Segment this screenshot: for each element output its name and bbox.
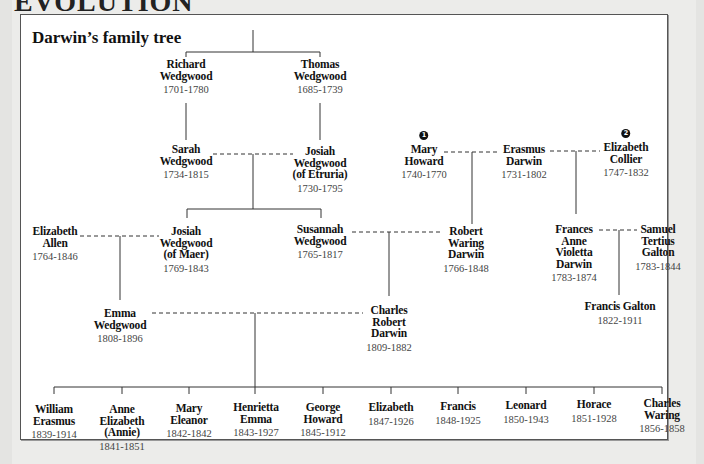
person-thomas-wedgwood: Thomas Wedgwood 1685-1739 [294,59,347,96]
note-marker-1: 1 [420,131,429,140]
child-horace: Horace 1851-1928 [571,399,617,425]
person-josiah-wedgwood-etruria: Josiah Wedgwood (of Etruria) 1730-1795 [293,146,348,195]
child-anne-elizabeth: Anne Elizabeth (Annie) 1841-1851 [99,404,145,453]
person-susannah-wedgwood: Susannah Wedgwood 1765-1817 [294,224,347,261]
person-erasmus-darwin: Erasmus Darwin 1731-1802 [501,144,547,181]
person-mary-howard: 1 Mary Howard 1740-1770 [401,131,447,181]
child-william-erasmus: William Erasmus 1839-1914 [31,404,77,441]
person-elizabeth-allen: Elizabeth Allen 1764-1846 [32,226,78,263]
person-richard-wedgwood: Richard Wedgwood 1701-1780 [160,59,213,96]
child-leonard: Leonard 1850-1943 [503,400,549,426]
child-george-howard: George Howard 1845-1912 [300,402,346,439]
child-elizabeth: Elizabeth 1847-1926 [368,402,414,428]
note-marker-2: 2 [622,129,631,138]
person-emma-wedgwood: Emma Wedgwood 1808-1896 [94,308,147,345]
child-francis: Francis 1848-1925 [435,401,481,427]
person-francis-galton: Francis Galton 1822-1911 [585,301,656,327]
person-sarah-wedgwood: Sarah Wedgwood 1734-1815 [160,144,213,181]
person-charles-robert-darwin: Charles Robert Darwin 1809-1882 [366,305,412,354]
person-josiah-wedgwood-maer: Josiah Wedgwood (of Maer) 1769-1843 [160,226,213,275]
person-samuel-tertius-galton: Samuel Tertius Galton 1783-1844 [635,224,681,273]
person-robert-waring-darwin: Robert Waring Darwin 1766-1848 [443,226,489,275]
child-henrietta-emma: Henrietta Emma 1843-1927 [233,402,279,439]
child-charles-waring: Charles Waring 1856-1858 [639,398,685,435]
child-mary-eleanor: Mary Eleanor 1842-1842 [166,403,212,440]
person-elizabeth-collier: 2 Elizabeth Collier 1747-1832 [603,129,649,179]
tree-connectors [0,0,704,464]
person-frances-anne-violetta-darwin: Frances Anne Violetta Darwin 1783-1874 [551,224,597,284]
